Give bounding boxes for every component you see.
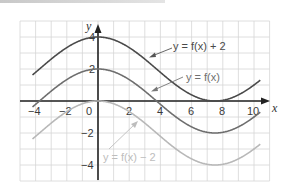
lower-curve-label: y = f(x) − 2 [103,151,156,163]
x-axis-label: x [271,101,278,115]
y-tick-label: −2 [81,127,94,139]
x-axis-arrow-icon [261,98,270,105]
lower-label-arrow [109,124,135,149]
x-tick-label: 6 [188,105,194,117]
x-tick-label: 8 [219,105,225,117]
upper-curve-label: y = f(x) + 2 [173,40,226,52]
y-axis-arrow-icon [95,24,102,33]
middle-curve-label: y = f(x) [186,71,220,83]
x-tick-label: −4 [28,105,41,117]
chart: x y −4 −2 0 2 4 6 8 10 4 2 −2 −4 y = f(x… [0,0,283,194]
arrowhead-icon [151,87,158,92]
y-tick-label: −4 [81,159,94,171]
x-tick-label: 0 [86,105,92,117]
